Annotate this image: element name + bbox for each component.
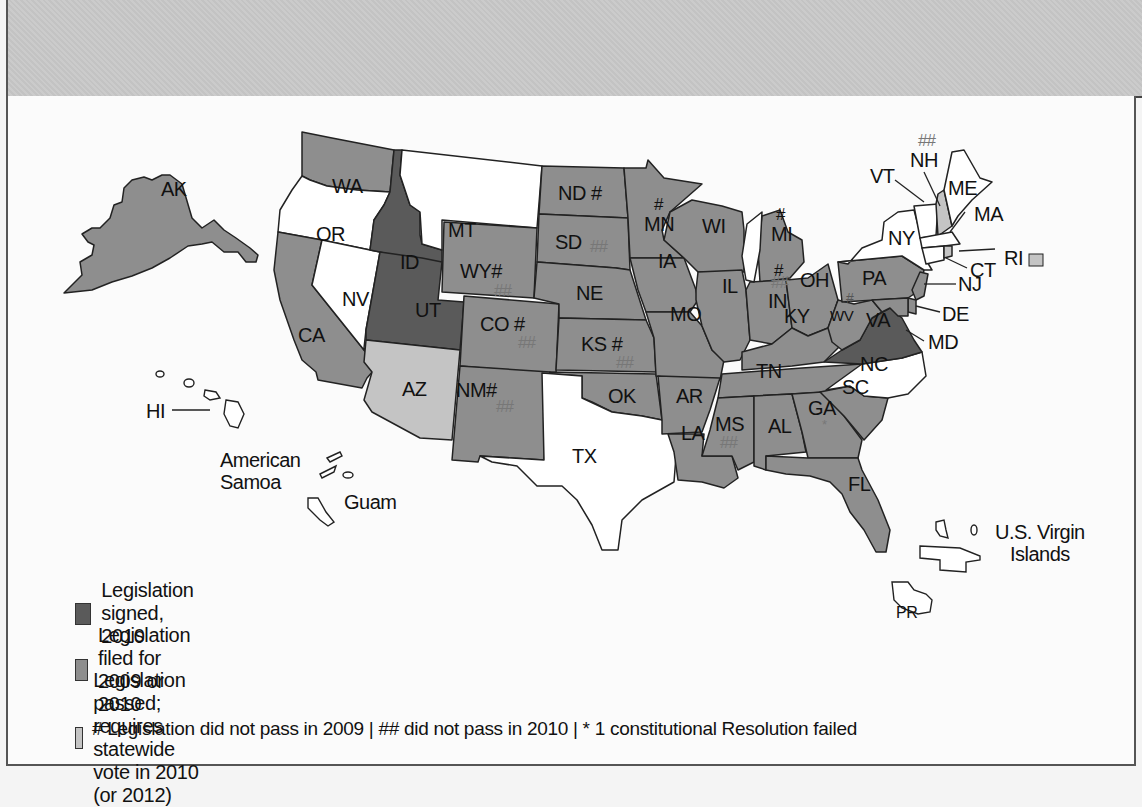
label-MO: MO [670, 304, 701, 324]
mark-MS-double-hash: ## [720, 434, 737, 451]
mark-GA-asterisk: * [822, 418, 827, 431]
header-band [6, 0, 1142, 98]
label-us-virgin-islands: U.S. Virgin Islands [995, 521, 1085, 565]
label-VA: VA [866, 310, 890, 330]
state-RI [944, 246, 952, 258]
state-CT [922, 246, 944, 264]
label-ME: ME [948, 178, 977, 198]
label-MA: MA [974, 204, 1003, 224]
label-ID: ID [400, 252, 419, 272]
island-samoa-2 [320, 466, 336, 478]
label-WI: WI [702, 216, 725, 236]
label-WA: WA [332, 176, 362, 196]
island-hi-4 [224, 400, 244, 428]
mark-NH-double-hash: ## [918, 132, 935, 149]
label-PR: PR [896, 605, 917, 621]
label-AR: AR [676, 386, 703, 406]
label-NH: NH [910, 150, 938, 170]
label-IL: IL [722, 276, 738, 296]
label-HI: HI [146, 401, 165, 421]
label-AZ: AZ [402, 379, 427, 399]
legend-swatch-passed-vote [75, 727, 83, 749]
label-TX: TX [572, 446, 597, 466]
label-CO: CO # [480, 314, 525, 334]
label-american-samoa: American Samoa [220, 449, 300, 493]
label-WY: WY# [460, 261, 502, 281]
mark-MN-hash: # [654, 196, 663, 213]
map-figure-frame: AK WA OR MT ID NV UT CA AZ WY# ## CO # #… [6, 96, 1136, 766]
ri-swatch [1029, 254, 1043, 266]
label-PA: PA [862, 268, 886, 288]
mark-NM-double-hash: ## [496, 398, 513, 415]
label-TN: TN [756, 361, 782, 381]
state-FL [766, 456, 890, 552]
label-MN: MN [644, 214, 674, 234]
label-KS: KS # [581, 334, 622, 354]
label-CA: CA [298, 325, 325, 345]
label-MI: MI [771, 224, 792, 244]
label-RI: RI [1004, 248, 1023, 268]
mark-WY-double-hash: ## [494, 282, 511, 299]
mark-SD-double-hash: ## [590, 238, 607, 255]
label-NV: NV [342, 289, 369, 309]
mark-KS-double-hash: ## [616, 354, 633, 371]
island-vi-3 [920, 546, 980, 572]
label-NJ: NJ [958, 274, 981, 294]
label-ND: ND # [558, 183, 602, 203]
label-FL: FL [848, 474, 870, 494]
island-guam [308, 498, 334, 526]
legend-swatch-signed [75, 603, 91, 625]
island-vi-2 [971, 525, 977, 535]
label-MS: MS [715, 414, 744, 434]
label-NE: NE [576, 283, 603, 303]
island-hi-3 [204, 390, 220, 400]
label-guam: Guam [344, 492, 396, 512]
label-NY: NY [888, 228, 915, 248]
label-OR: OR [316, 224, 345, 244]
mark-MI-hash: # [776, 206, 785, 223]
state-DE [908, 298, 916, 314]
island-samoa-1 [327, 452, 342, 462]
label-SC: SC [842, 377, 869, 397]
legend-footnote: # Legislation did not pass in 2009 | ## … [92, 718, 857, 740]
label-VT: VT [870, 166, 895, 186]
label-AK: AK [161, 179, 187, 199]
label-GA: GA [808, 398, 836, 418]
label-LA: LA [681, 423, 704, 443]
island-samoa-3 [343, 472, 353, 478]
label-NM: NM# [456, 380, 497, 400]
label-OH: OH [800, 270, 829, 290]
label-DE: DE [942, 304, 969, 324]
mark-IN-double-hash: ## [771, 274, 788, 291]
mark-CO-double-hash: ## [518, 334, 535, 351]
label-MT: MT [448, 220, 476, 240]
label-OK: OK [608, 386, 636, 406]
label-KY: KY [784, 306, 810, 326]
label-AL: AL [768, 416, 791, 436]
label-NC: NC [860, 354, 888, 374]
state-CO [460, 296, 559, 374]
label-UT: UT [415, 300, 441, 320]
label-MD: MD [928, 332, 958, 352]
island-vi-1 [936, 520, 948, 538]
state-SD [537, 214, 630, 270]
island-hi-1 [156, 371, 164, 377]
label-SD: SD [555, 232, 582, 252]
mark-WV-hash: # [846, 291, 854, 305]
island-hi-2 [184, 379, 194, 387]
label-WV: WV [830, 308, 853, 323]
label-IA: IA [658, 251, 676, 271]
